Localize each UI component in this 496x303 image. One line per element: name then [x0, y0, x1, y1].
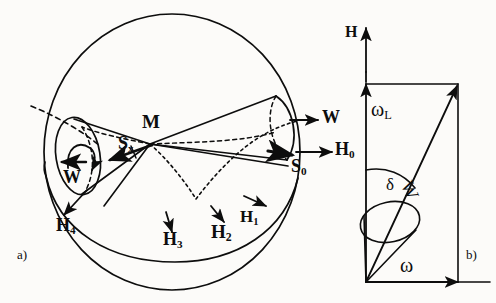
label-W-right: W: [322, 108, 340, 126]
label-H-axis: H: [345, 24, 357, 40]
h2-arrow: [211, 206, 224, 222]
caption-panel-a: a): [17, 248, 27, 261]
label-omega: ω: [400, 255, 413, 275]
figure-root: M Sx S0 H0 W W H1 H2 H3 H4 a) H ωL δ W ω…: [0, 0, 496, 303]
label-omega-L: ωL: [371, 99, 392, 122]
label-S0: S0: [291, 157, 307, 177]
label-H1: H1: [240, 208, 259, 227]
precession-ring-dotted: [150, 144, 196, 199]
label-W-left: W: [63, 168, 81, 186]
label-H0: H0: [335, 140, 355, 160]
label-delta: δ: [386, 176, 394, 193]
left-cone-hidden-base-dashed: [82, 127, 92, 190]
label-M: M: [142, 112, 160, 131]
s-zero-arrow: [268, 151, 292, 155]
h1-arrow: [244, 196, 266, 206]
label-S-spin: Sx: [118, 134, 134, 154]
caption-panel-b: b): [466, 248, 477, 261]
cone-leg-right: [150, 144, 288, 166]
right-cone-lower-edge: [150, 144, 287, 160]
figure-canvas: [0, 0, 496, 303]
label-H4: H4: [56, 216, 76, 236]
label-H3: H3: [163, 230, 183, 250]
label-H2: H2: [211, 222, 232, 244]
